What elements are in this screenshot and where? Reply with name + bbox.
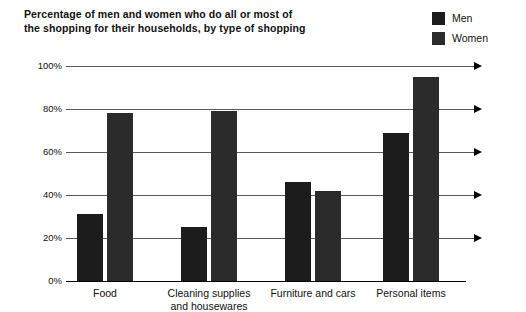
y-tick-label-60: 60%	[4, 147, 62, 157]
gridline-arrow-icon-80	[474, 105, 482, 113]
y-tick-label-0: 0%	[4, 276, 62, 286]
bar-women-2	[315, 191, 341, 281]
bar-men-3	[383, 133, 409, 281]
y-tick-label-40: 40%	[4, 190, 62, 200]
bar-men-2	[285, 182, 311, 281]
bar-women-1	[211, 111, 237, 281]
bar-women-3	[413, 77, 439, 281]
bar-men-1	[181, 227, 207, 281]
gridline-0	[66, 281, 466, 282]
y-tick-label-80: 80%	[4, 104, 62, 114]
gridline-arrow-icon-20	[474, 234, 482, 242]
x-tick-label-line: Personal items	[346, 287, 476, 300]
x-tick-label-3: Personal items	[346, 287, 476, 300]
y-tick-label-20: 20%	[4, 233, 62, 243]
gridline-100	[66, 66, 474, 67]
gridline-arrow-icon-40	[474, 191, 482, 199]
x-tick-label-line: and housewares	[144, 300, 274, 312]
bar-men-0	[77, 214, 103, 281]
y-tick-label-100: 100%	[4, 61, 62, 71]
gridline-arrow-icon-100	[474, 62, 482, 70]
bar-women-0	[107, 113, 133, 281]
y-axis-tick-labels: 0%20%40%60%80%100%	[0, 0, 62, 307]
gridline-arrow-icon-60	[474, 148, 482, 156]
